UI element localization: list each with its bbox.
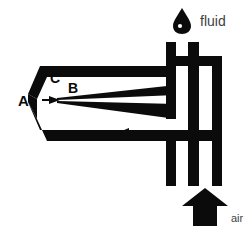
gas-shell-right-wall — [212, 56, 222, 186]
inner-capillary-lower-wedge — [57, 101, 176, 119]
gas-shell-lower-connector — [166, 130, 212, 141]
nebulizer-diagram-figure: A C B fluid air — [0, 0, 252, 232]
droplet-icon — [173, 8, 191, 34]
label-c: C — [50, 70, 60, 86]
air-riser-wall — [166, 141, 176, 186]
label-a: A — [18, 92, 29, 109]
up-arrow-icon — [182, 188, 228, 226]
diagram-canvas: A C B fluid air — [0, 0, 252, 232]
fluid-label: fluid — [200, 13, 226, 29]
fluid-tube-upper-connector — [176, 56, 212, 66]
air-label: air — [231, 212, 244, 224]
label-b: B — [68, 80, 78, 96]
fluid-inlet-tube-left-wall — [166, 42, 176, 92]
